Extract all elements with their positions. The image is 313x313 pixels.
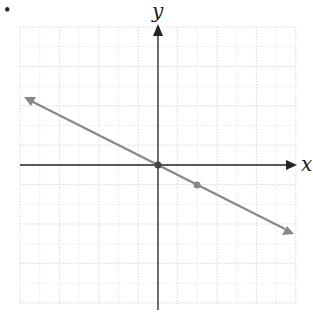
y-axis-arrow-icon (153, 24, 163, 36)
bullet: • (4, 0, 10, 20)
coordinate-plane: • x y (0, 0, 313, 313)
point-origin (155, 162, 162, 169)
y-axis-label: y (151, 0, 164, 23)
point-2-neg1 (194, 182, 201, 189)
x-axis-label: x (301, 152, 312, 176)
